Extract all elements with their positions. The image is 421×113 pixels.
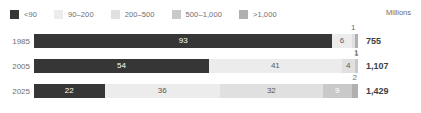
legend-item-3[interactable]: 500–1,000 [172, 10, 222, 19]
stacked-bar-chart: <90 90–200 200–500 500–1,000 >1,000 Mill… [0, 0, 421, 113]
bar-segment-label: 93 [179, 36, 188, 46]
legend-swatch-icon-3 [172, 10, 181, 19]
bar-segment-label: 9 [335, 86, 339, 96]
legend-item-2[interactable]: 200–500 [111, 10, 155, 19]
legend-swatch-icon-2 [111, 10, 120, 19]
legend-label-2: 200–500 [125, 10, 155, 19]
bar-row: 20055441411,107 [0, 53, 421, 78]
bar-segment[interactable]: 2 [352, 84, 358, 98]
bar-row: 198593611755 [0, 28, 421, 53]
row-total-label: 755 [366, 35, 414, 47]
bar-segment[interactable]: 54 [34, 59, 209, 73]
legend-label-3: 500–1,000 [186, 10, 222, 19]
units-label: Millions [386, 8, 411, 17]
bar-segment[interactable]: 6 [332, 34, 351, 48]
bar-segment[interactable]: 1 [355, 59, 358, 73]
legend-item-0[interactable]: <90 [10, 10, 37, 19]
legend-label-0: <90 [24, 10, 37, 19]
legend-swatch-icon-0 [10, 10, 19, 19]
row-total-label: 1,107 [366, 60, 414, 72]
bar-segment[interactable]: 9 [323, 84, 352, 98]
bar-track: 22363292 [34, 84, 358, 98]
bar-segment-label: 32 [267, 86, 276, 96]
row-year-label: 2025 [0, 86, 30, 97]
legend-item-1[interactable]: 90–200 [54, 10, 94, 19]
bar-track: 544141 [34, 59, 358, 73]
legend-swatch-icon-1 [54, 10, 63, 19]
bar-segment-label: 4 [346, 61, 350, 71]
bar-segment[interactable]: 4 [342, 59, 355, 73]
legend-item-4[interactable]: >1,000 [239, 10, 277, 19]
legend-swatch-icon-4 [239, 10, 248, 19]
bar-segment-label: 41 [271, 61, 280, 71]
bar-segment-label: 22 [65, 86, 74, 96]
legend-label-1: 90–200 [68, 10, 94, 19]
chart-legend: <90 90–200 200–500 500–1,000 >1,000 Mill… [10, 8, 411, 20]
row-year-label: 2005 [0, 61, 30, 72]
bar-segment[interactable]: 41 [209, 59, 342, 73]
bar-segment-label: 1 [351, 23, 355, 33]
bar-segment-label: 36 [158, 86, 167, 96]
row-year-label: 1985 [0, 36, 30, 47]
bar-rows: 19859361175520055441411,1072025223632921… [0, 28, 421, 103]
bar-segment-label: 6 [340, 36, 344, 46]
bar-segment[interactable]: 1 [355, 34, 358, 48]
bar-segment[interactable]: 22 [34, 84, 105, 98]
row-total-label: 1,429 [366, 85, 414, 97]
bar-segment[interactable]: 32 [220, 84, 323, 98]
bar-track: 93611 [34, 34, 358, 48]
bar-segment[interactable]: 93 [34, 34, 332, 48]
bar-segment-label: 54 [117, 61, 126, 71]
bar-row: 2025223632921,429 [0, 78, 421, 103]
bar-segment[interactable]: 36 [105, 84, 220, 98]
legend-label-4: >1,000 [253, 10, 277, 19]
